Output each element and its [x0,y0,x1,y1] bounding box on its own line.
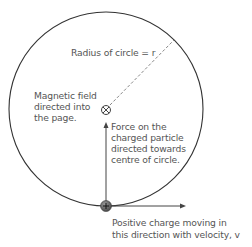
field-label: Magnetic field directed into the page. [34,90,97,123]
svg-text:directed towards: directed towards [111,143,186,154]
svg-text:Force on the: Force on the [111,121,167,132]
svg-text:Magnetic field: Magnetic field [34,90,97,101]
radius-label: Radius of circle = r [71,47,156,58]
force-arrow [104,122,109,205]
velocity-arrow [106,204,186,209]
force-label: Force on the charged particle directed t… [111,121,186,165]
svg-text:this direction with velocity,: this direction with velocity, v [112,229,241,240]
svg-text:the page.: the page. [34,112,77,123]
svg-text:charged particle: charged particle [111,132,184,143]
svg-text:directed into: directed into [34,101,91,112]
field-into-page-icon [102,106,111,115]
positive-charge-icon [101,201,112,212]
magnetic-circle-diagram: Radius of circle = r Magnetic field dire… [0,0,252,247]
svg-text:Positive charge moving in: Positive charge moving in [112,217,227,228]
svg-text:centre of circle.: centre of circle. [111,154,180,165]
velocity-label: Positive charge moving in this direction… [112,217,241,240]
